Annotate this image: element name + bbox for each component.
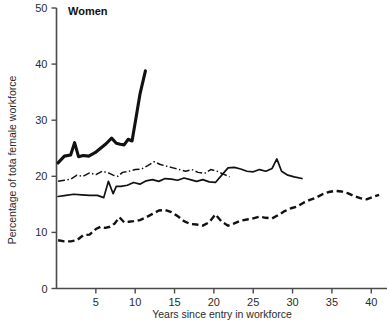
y-tick-label: 10	[35, 226, 47, 238]
chart-figure: Women 01020304050 510152025303540 Percen…	[0, 0, 389, 326]
x-axis-label: Years since entry in workforce	[152, 308, 292, 320]
x-tick-label: 30	[286, 296, 298, 308]
y-axis: 01020304050	[35, 2, 56, 295]
line-chart-svg: Women 01020304050 510152025303540 Percen…	[0, 0, 389, 326]
x-axis: 510152025303540	[57, 289, 388, 308]
y-tick-label: 0	[41, 283, 47, 295]
y-tick-label: 50	[35, 2, 47, 14]
x-tick-label: 15	[168, 296, 180, 308]
y-tick-label: 20	[35, 170, 47, 182]
x-tick-label: 25	[247, 296, 259, 308]
y-tick-label: 40	[35, 58, 47, 70]
y-tick-group: 01020304050	[35, 2, 56, 295]
series-line-dash-dot	[58, 162, 230, 182]
series-line-thick-solid	[58, 71, 145, 163]
series-line-dashed	[58, 191, 379, 241]
y-tick-label: 30	[35, 114, 47, 126]
x-tick-label: 40	[365, 296, 377, 308]
x-tick-label: 20	[208, 296, 220, 308]
y-axis-label: Percentage of tota female workforce	[6, 76, 18, 245]
x-tick-label: 10	[129, 296, 141, 308]
x-tick-group: 510152025303540	[93, 289, 378, 308]
x-tick-label: 5	[93, 296, 99, 308]
series-layer	[58, 71, 379, 242]
x-tick-label: 35	[326, 296, 338, 308]
chart-title: Women	[68, 5, 108, 17]
series-line-thin-solid	[58, 159, 302, 198]
